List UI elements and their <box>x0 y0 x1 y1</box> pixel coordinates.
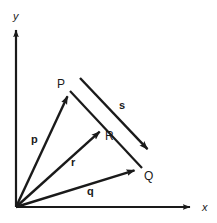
point-label-q: Q <box>144 169 153 183</box>
vector-label-q: q <box>87 185 94 197</box>
vector-label-p: p <box>31 133 38 145</box>
vector-label-r: r <box>71 156 76 168</box>
vector-diagram-canvas: y x P Q R p q r s <box>0 0 217 223</box>
y-axis-label: y <box>12 10 20 22</box>
x-axis-label: x <box>201 201 208 213</box>
vector-label-s: s <box>119 99 125 111</box>
vector-q-line <box>16 170 135 207</box>
vector-diagram-figure: y x P Q R p q r s <box>0 0 217 223</box>
point-label-r: R <box>105 129 114 143</box>
point-label-p: P <box>57 77 65 91</box>
vector-p-line <box>16 96 68 207</box>
